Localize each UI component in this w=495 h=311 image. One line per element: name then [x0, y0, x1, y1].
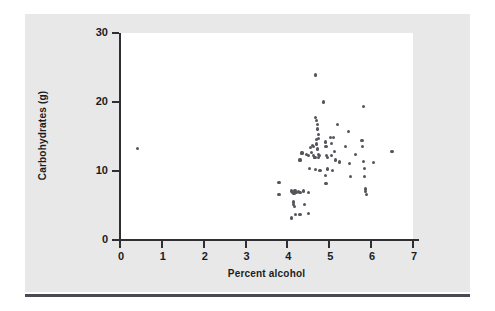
scatter-point: [365, 193, 368, 196]
y-axis-title: Carbohydrates (g): [37, 66, 48, 206]
scatter-point: [344, 145, 347, 148]
scatter-point: [354, 153, 357, 156]
scatter-point: [349, 175, 352, 178]
scatter-point: [326, 167, 329, 170]
y-axis-tick: [112, 239, 119, 241]
scatter-point: [136, 147, 139, 150]
scatter-point: [302, 189, 305, 192]
y-axis-tick-label: 10: [84, 165, 108, 176]
scatter-point: [324, 140, 327, 143]
x-axis-tick-label: 3: [237, 250, 257, 262]
x-axis-tick: [286, 241, 288, 248]
scatter-point: [315, 142, 318, 145]
scatter-point: [390, 150, 393, 153]
scatter-point: [338, 160, 341, 163]
scatter-point: [317, 133, 320, 136]
scatter-point: [360, 139, 363, 142]
scatter-point: [290, 216, 293, 219]
x-axis-tick-label: 6: [362, 250, 382, 262]
scatter-point: [322, 100, 325, 103]
x-axis-tick-label: 5: [320, 250, 340, 262]
scatter-point: [316, 147, 319, 150]
x-axis-line: [119, 239, 419, 241]
y-axis-tick: [112, 101, 119, 103]
plot-area: [120, 33, 413, 240]
scatter-point: [324, 182, 327, 185]
x-axis-tick-label: 0: [111, 250, 131, 262]
x-axis-tick-label: 1: [153, 250, 173, 262]
scatter-point: [347, 130, 350, 133]
x-axis-title: Percent alcohol: [120, 268, 413, 279]
scatter-point: [363, 167, 366, 170]
x-axis-tick-label: 2: [195, 250, 215, 262]
x-axis-tick: [328, 241, 330, 248]
y-axis-line: [119, 33, 121, 241]
scatter-point: [303, 203, 306, 206]
x-axis-tick: [161, 241, 163, 248]
scatter-point: [334, 158, 337, 161]
y-axis-tick-label: 30: [84, 27, 108, 38]
scatter-point: [324, 145, 327, 148]
scatter-point: [300, 151, 303, 154]
x-axis-tick: [370, 241, 372, 248]
scatter-point: [308, 167, 311, 170]
x-axis-tick-label: 4: [278, 250, 298, 262]
bottom-rule: [25, 294, 470, 297]
scatter-point: [277, 193, 280, 196]
y-axis-tick: [112, 32, 119, 34]
scatter-plot-figure: 0102030 01234567 Percent alcohol Carbohy…: [0, 0, 495, 311]
scatter-point: [316, 127, 319, 130]
scatter-point: [318, 169, 321, 172]
x-axis-tick: [119, 241, 121, 248]
scatter-point: [293, 205, 296, 208]
scatter-point: [330, 142, 333, 145]
x-axis-tick-label: 7: [404, 250, 424, 262]
x-axis-tick: [245, 241, 247, 248]
scatter-point: [307, 191, 310, 194]
y-axis-tick-label: 0: [84, 234, 108, 245]
x-axis-tick: [203, 241, 205, 248]
y-axis-tick: [112, 170, 119, 172]
scatter-point: [277, 181, 280, 184]
scatter-point: [298, 213, 301, 216]
y-axis-tick-label: 20: [84, 96, 108, 107]
x-axis-tick: [412, 241, 414, 248]
scatter-point: [362, 105, 365, 108]
scatter-point: [298, 158, 301, 161]
scatter-point: [348, 162, 351, 165]
